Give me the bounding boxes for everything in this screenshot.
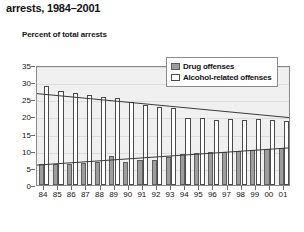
x-tick-mark: [241, 186, 242, 190]
y-tick-label: 25: [0, 96, 31, 105]
y-tick-label: 5: [0, 165, 31, 174]
legend-item-drug: Drug offenses: [171, 61, 272, 72]
x-tick-mark: [227, 186, 228, 190]
legend-label-drug: Drug offenses: [183, 62, 234, 71]
y-tick-label: 30: [0, 79, 31, 88]
x-tick-mark: [85, 186, 86, 190]
x-tick-mark: [184, 186, 185, 190]
x-tick-mark: [114, 186, 115, 190]
y-tick-mark: [31, 66, 35, 67]
x-tick-mark: [255, 186, 256, 190]
y-tick-mark: [31, 152, 35, 153]
x-tick-mark: [71, 186, 72, 190]
y-tick-mark: [31, 169, 35, 170]
y-tick-mark: [31, 135, 35, 136]
x-tick-mark: [43, 186, 44, 190]
y-tick-mark: [31, 186, 35, 187]
x-tick-mark: [142, 186, 143, 190]
x-tick-label: 01: [275, 190, 291, 199]
x-tick-mark: [283, 186, 284, 190]
y-tick-label: 0: [0, 182, 31, 191]
y-axis-label: Percent of total arrests: [22, 30, 107, 39]
x-tick-mark: [128, 186, 129, 190]
y-tick-mark: [31, 100, 35, 101]
x-tick-mark: [212, 186, 213, 190]
y-tick-label: 35: [0, 62, 31, 71]
x-tick-mark: [198, 186, 199, 190]
y-tick-label: 15: [0, 131, 31, 140]
x-tick-mark: [269, 186, 270, 190]
y-tick-mark: [31, 83, 35, 84]
y-tick-mark: [31, 117, 35, 118]
x-tick-mark: [100, 186, 101, 190]
x-tick-mark: [156, 186, 157, 190]
y-tick-label: 20: [0, 113, 31, 122]
x-tick-mark: [170, 186, 171, 190]
legend-swatch-alcohol-icon: [171, 74, 180, 81]
chart-legend: Drug offenses Alcohol-related offenses: [166, 57, 278, 87]
x-tick-mark: [57, 186, 58, 190]
legend-item-alcohol: Alcohol-related offenses: [171, 72, 272, 83]
trendline: [37, 148, 289, 165]
page-title: arrests, 1984–2001: [6, 2, 100, 14]
y-tick-label: 10: [0, 148, 31, 157]
legend-swatch-drug-icon: [171, 63, 180, 70]
trendline: [37, 94, 289, 118]
legend-label-alcohol: Alcohol-related offenses: [183, 73, 272, 82]
